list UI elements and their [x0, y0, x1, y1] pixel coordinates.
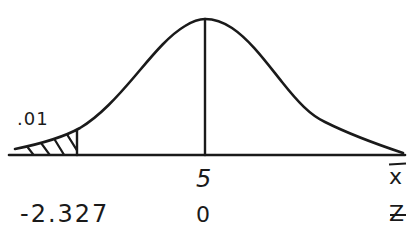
- bell-curve: [15, 19, 403, 153]
- z-axis-label: Z: [389, 203, 404, 225]
- tail-probability-label: .01: [17, 110, 49, 128]
- xbar-axis-label: x: [389, 163, 406, 188]
- mean-z-label: 0: [196, 204, 210, 226]
- z-crossbar: [390, 214, 406, 216]
- mean-xbar-label: 5: [196, 167, 211, 191]
- xbar-axis-text: x: [389, 164, 402, 189]
- critical-z-label: -2.327: [20, 202, 109, 226]
